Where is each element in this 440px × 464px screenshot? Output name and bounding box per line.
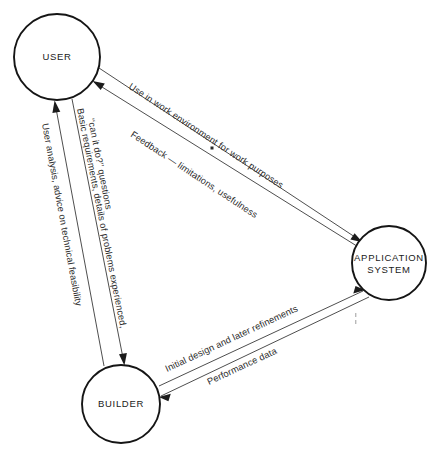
edge-line-performance-data [161,297,369,396]
edge-line-initial-design [159,291,363,386]
edge-line-feedback [94,82,368,253]
edge-builder-to-system-design [159,286,365,386]
edge-label-initial-design: Initial design and later refinements [164,303,300,374]
node-user[interactable]: USER [14,14,100,100]
node-user-label: USER [42,51,71,62]
edge-system-to-builder-performance [159,297,369,401]
edge-label-use-in-work-environment: Use in work environment for work purpose… [127,81,285,190]
edge-label-basic-requirements-line1: Basic requirements, details of problems … [75,107,128,328]
edge-system-to-user-feedback [93,81,368,253]
edge-label-user-analysis: User analysis, advice on technical feasi… [40,123,84,307]
arrowhead-toward-user-analysis [52,101,60,113]
scan-speck-right-lower [355,320,356,324]
arrowhead-toward-user-feedback [93,81,105,90]
diagram-canvas: USER APPLICATION SYSTEM BUILDER Use in w… [0,0,440,464]
node-application-system[interactable]: APPLICATION SYSTEM [352,226,426,300]
edge-label-feedback: Feedback — limitations, usefulness [129,129,260,220]
scan-speck-right [355,313,356,317]
edge-label-performance-data: Performance data [206,346,279,387]
diagram-svg: USER APPLICATION SYSTEM BUILDER Use in w… [0,0,440,464]
node-application-system-label-line1: APPLICATION [354,252,424,263]
scan-speck-center [211,147,214,150]
arrowhead-toward-builder-requirements [119,353,127,365]
node-builder[interactable]: BUILDER [82,365,160,443]
node-builder-label: BUILDER [98,398,144,409]
node-application-system-label-line2: SYSTEM [367,264,410,275]
